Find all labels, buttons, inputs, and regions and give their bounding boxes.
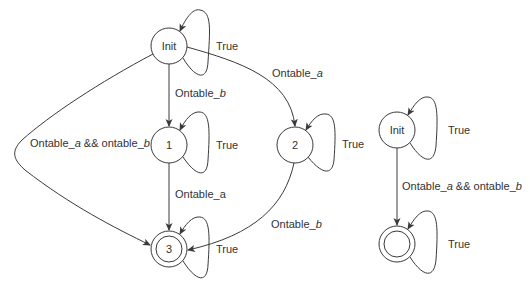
node-right-init: Init [379,112,415,148]
label-init-to-1: Ontable_b [175,87,226,99]
label-1-to-3: Ontable_a [175,188,227,200]
label-3-self: True [216,243,238,255]
svg-text:Init: Init [390,124,405,136]
node-init: Init [151,28,187,64]
label-2-self: True [342,138,364,150]
node-2: 2 [277,127,313,163]
edge-2-to-3 [188,163,294,250]
state-diagram: True Ontable_b Ontable_a Ontable_a && on… [0,0,530,295]
label-right-init-to-final: Ontable_a && ontable_b [402,180,522,192]
label-init-to-2: Ontable_a [272,67,323,79]
node-1: 1 [151,127,187,163]
svg-text:2: 2 [292,139,298,151]
label-2-to-3: Ontable_b [271,218,322,230]
label-init-to-3: Ontable_a && ontable_b [30,137,150,149]
label-init-self: True [216,40,238,52]
svg-text:3: 3 [166,243,172,255]
label-right-final-self: True [448,238,470,250]
svg-text:Init: Init [162,40,177,52]
label-1-self: True [216,139,238,151]
label-right-init-self: True [448,124,470,136]
edge-init-to-3 [15,54,153,245]
svg-text:1: 1 [166,139,172,151]
node-3-accepting: 3 [151,231,187,267]
node-right-final-accepting [379,226,415,262]
